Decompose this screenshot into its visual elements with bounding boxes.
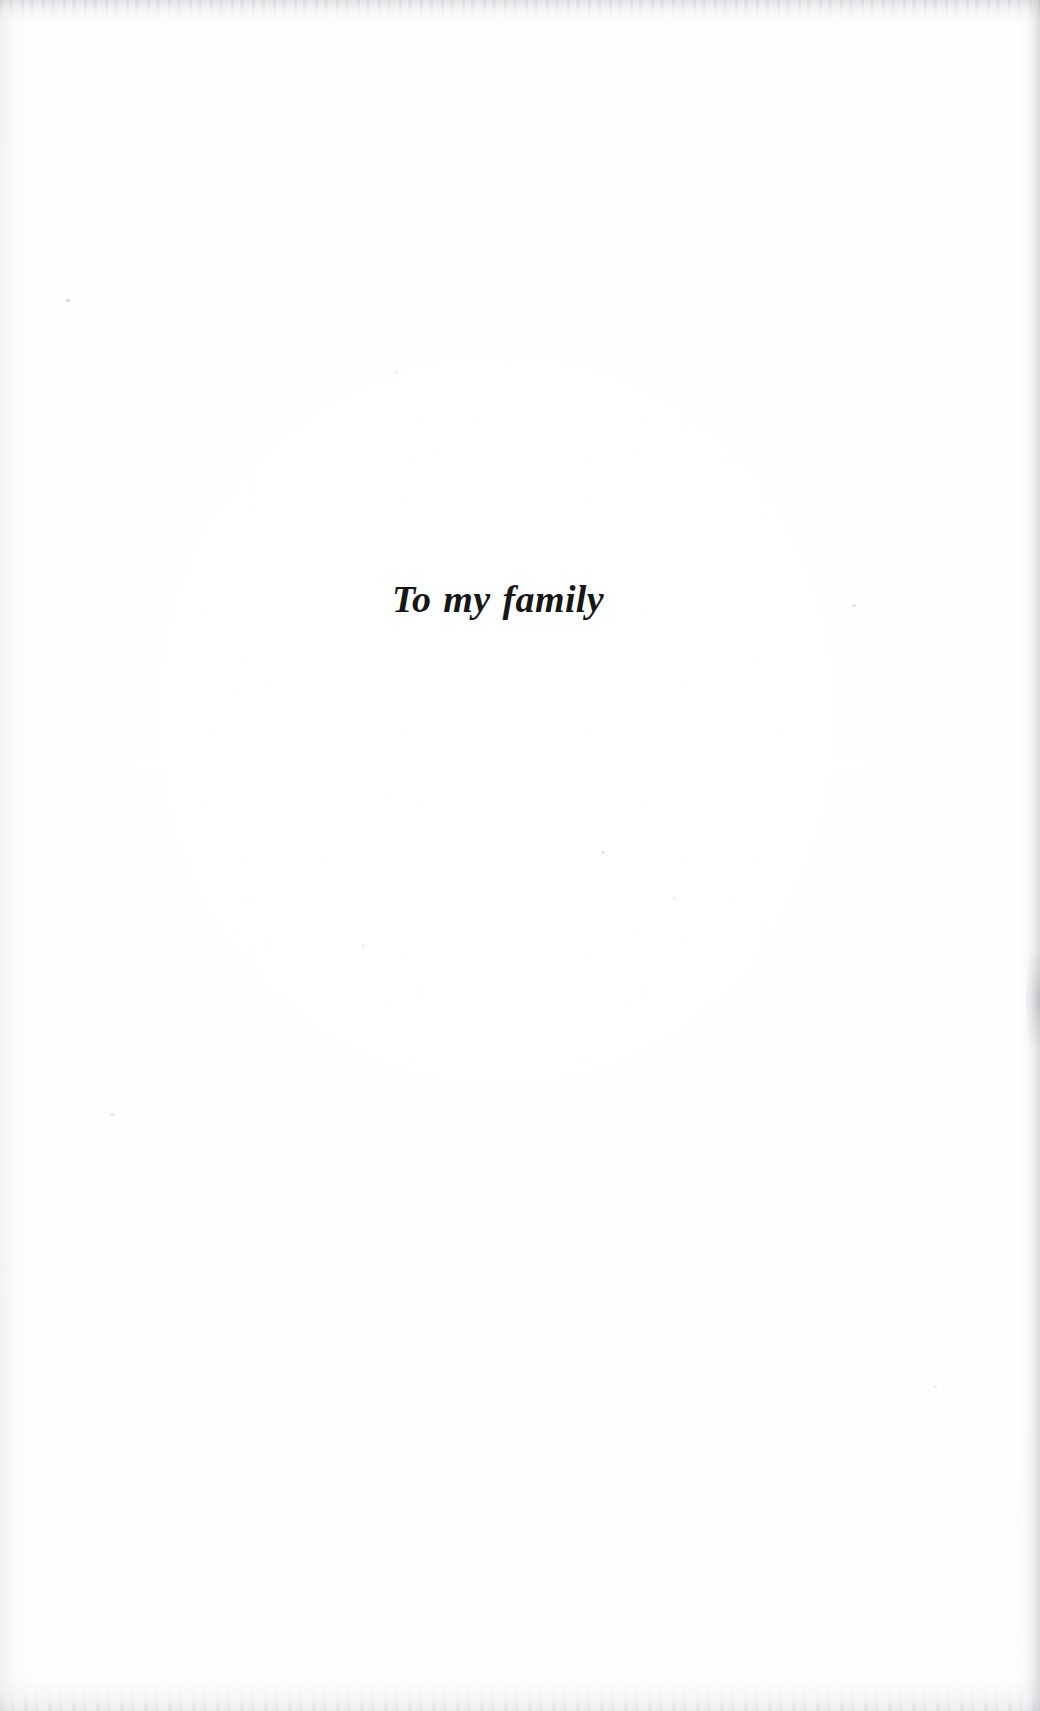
dust-speck	[673, 897, 676, 900]
dust-speck	[66, 299, 70, 302]
scan-edge-fringe-bottom	[0, 1685, 1040, 1711]
dust-speck	[362, 944, 365, 947]
dust-speck	[395, 371, 398, 374]
paper-grain-texture	[0, 0, 1040, 1711]
scan-edge-shadow-right	[1018, 0, 1040, 1711]
scan-edge-shadow-top	[0, 0, 1040, 26]
paper-background	[0, 0, 1040, 1711]
dust-speck	[601, 851, 605, 854]
dedication-text: To my family	[392, 580, 604, 620]
scan-edge-shadow-bottom	[0, 1677, 1040, 1711]
dust-speck	[110, 1113, 115, 1116]
scan-edge-smudge-right	[1026, 955, 1040, 1045]
scan-edge-fringe-top	[0, 0, 1040, 20]
scanned-book-page: To my family	[0, 0, 1040, 1711]
dust-speck	[934, 1385, 937, 1388]
dedication-block: To my family	[0, 580, 1040, 620]
scan-edge-shadow-left	[0, 0, 30, 1711]
